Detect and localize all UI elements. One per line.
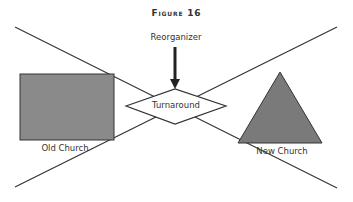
reorganizer-arrowhead-icon [170, 79, 180, 89]
new-church-triangle [238, 72, 322, 143]
new-church-label: New Church [256, 146, 307, 156]
old-church-rectangle [20, 74, 114, 140]
reorganizer-label: Reorganizer [151, 32, 202, 42]
figure-16-diagram: Figure 16 Reorganizer Turnaround Old Chu… [0, 0, 353, 202]
old-church-label: Old Church [41, 143, 88, 153]
turnaround-label: Turnaround [151, 100, 201, 110]
